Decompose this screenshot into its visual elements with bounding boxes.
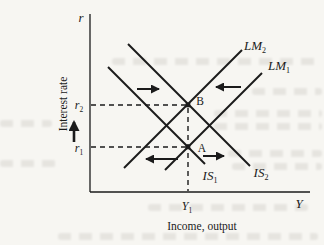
lm2-curve	[124, 50, 242, 168]
point-b-label: B	[196, 96, 204, 108]
scanned-textbook-figure: r Interest rate r2 r1 B A LM2 LM1 IS1 IS…	[0, 0, 324, 245]
point-b-marker	[186, 103, 191, 108]
r2-tick-label: r2	[75, 99, 83, 111]
point-a-label: A	[198, 143, 206, 155]
is2-curve-label: IS2	[254, 166, 269, 179]
x-axis-symbol: Y	[295, 197, 302, 210]
is1-curve-label: IS1	[203, 169, 218, 182]
lm2-curve-label: LM2	[244, 39, 266, 52]
y-axis-symbol: r	[78, 11, 83, 24]
lm1-curve-label: LM1	[268, 59, 290, 72]
y1-tick-label: Y1	[182, 200, 192, 212]
y-axis-title: Interest rate	[58, 77, 70, 132]
point-a-marker	[186, 145, 191, 150]
r1-tick-label: r1	[75, 142, 83, 154]
is1-curve	[108, 67, 205, 164]
islm-plot	[0, 0, 324, 245]
x-axis-title: Income, output	[167, 221, 237, 233]
